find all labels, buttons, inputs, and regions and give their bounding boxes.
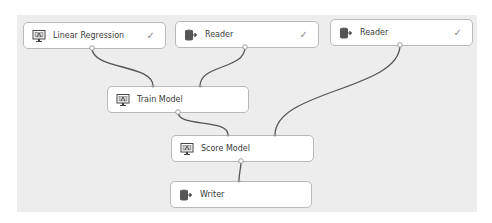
- database-export-icon: [184, 28, 198, 42]
- node-label: Score Model: [201, 144, 313, 153]
- model-monitor-icon: [32, 29, 46, 43]
- database-export-icon: [339, 26, 353, 40]
- node-label: Writer: [200, 190, 311, 199]
- node-label: Reader: [360, 28, 454, 37]
- node-label: Linear Regression: [53, 31, 147, 40]
- node-reader-1[interactable]: Reader ✓: [175, 21, 319, 48]
- node-linear-regression[interactable]: Linear Regression ✓: [23, 22, 166, 49]
- model-monitor-icon: [116, 93, 130, 107]
- node-reader-2[interactable]: Reader ✓: [330, 19, 473, 46]
- checkmark-icon: ✓: [454, 27, 462, 38]
- node-score-model[interactable]: Score Model: [171, 135, 314, 162]
- node-writer[interactable]: Writer: [170, 181, 312, 208]
- database-export-icon: [179, 188, 193, 202]
- checkmark-icon: ✓: [147, 30, 155, 41]
- node-label: Train Model: [137, 95, 248, 104]
- model-monitor-icon: [180, 142, 194, 156]
- node-label: Reader: [205, 30, 300, 39]
- checkmark-icon: ✓: [300, 29, 308, 40]
- node-train-model[interactable]: Train Model: [107, 86, 249, 113]
